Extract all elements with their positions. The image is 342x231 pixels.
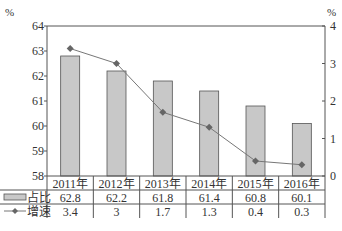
left-tick-label: 63 [32,44,44,58]
legend-diamond-icon [12,208,18,214]
table-line-value: 1.3 [202,205,217,219]
bar [246,106,265,176]
table-category-label: 2016年 [284,177,320,191]
table-bar-value: 62.2 [106,191,127,205]
legend-line-label: 增速 [27,205,51,219]
table-bar-value: 61.8 [152,191,173,205]
right-tick-label: 2 [330,94,336,108]
right-unit-label: % [327,6,336,18]
right-tick-label: 0 [330,169,336,183]
table-bar-value: 60.8 [245,191,266,205]
table-category-label: 2014年 [191,177,227,191]
table-bar-value: 61.4 [199,191,220,205]
left-tick-label: 61 [32,94,44,108]
left-tick-label: 64 [32,19,44,33]
table-bar-value: 62.8 [60,191,81,205]
table-line-value: 0.4 [248,205,263,219]
line-series [67,45,306,168]
bar-series [61,56,312,176]
table-line-value: 3.4 [63,205,78,219]
table-bar-value: 60.1 [291,191,312,205]
line-path [70,49,302,165]
legend-bar-label: 占比 [27,190,51,205]
left-unit-label: % [5,6,14,18]
table-category-label: 2012年 [99,177,135,191]
right-tick-label: 1 [330,132,336,146]
table-line-value: 0.3 [294,205,309,219]
table-category-label: 2011年 [52,177,88,191]
diamond-marker [67,45,74,52]
bar-line-chart: 58596061626364%01234% 2011年2012年2013年201… [0,0,342,231]
table-category-label: 2013年 [145,177,181,191]
data-table: 2011年2012年2013年2014年2015年2016年占比增速62.862… [0,176,325,219]
left-tick-label: 62 [32,69,44,83]
left-tick-label: 59 [32,144,44,158]
left-tick-label: 60 [32,119,44,133]
right-tick-label: 4 [330,19,336,33]
bar [200,91,219,176]
bar [61,56,80,176]
table-category-label: 2015年 [238,177,274,191]
table-line-value: 1.7 [155,205,170,219]
bar [107,71,126,176]
table-line-value: 3 [114,205,120,219]
bar [153,81,172,176]
legend-bar-swatch [4,194,26,200]
left-tick-label: 58 [32,169,44,183]
right-tick-label: 3 [330,57,336,71]
